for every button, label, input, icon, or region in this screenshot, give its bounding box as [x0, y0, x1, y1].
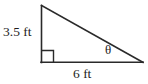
theta-angle-label: θ	[105, 43, 111, 56]
right-triangle-figure: 3.5 ft 6 ft θ	[0, 0, 148, 84]
hypotenuse-line	[42, 6, 144, 63]
right-angle-marker-icon	[42, 51, 54, 63]
horizontal-leg-label: 6 ft	[73, 67, 91, 81]
vertical-leg-label: 3.5 ft	[3, 25, 32, 39]
